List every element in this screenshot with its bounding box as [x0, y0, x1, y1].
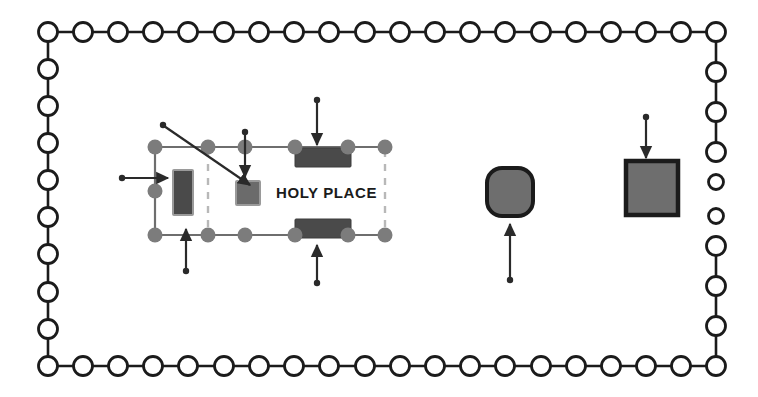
post-top [179, 23, 198, 42]
post-top [144, 23, 163, 42]
post-bottom [320, 357, 339, 376]
holy-place-label: HOLY PLACE [276, 184, 377, 201]
post-top [426, 23, 445, 42]
pointer-lampstand [314, 245, 320, 286]
post-bottom [461, 357, 480, 376]
post-bottom [496, 357, 515, 376]
post-left [39, 134, 58, 153]
post-bottom [637, 357, 656, 376]
post-corner-top-left [39, 23, 58, 42]
tent-pillar [148, 184, 163, 199]
post-bottom [74, 357, 93, 376]
post-top [285, 23, 304, 42]
post-top [532, 23, 551, 42]
post-top [215, 23, 234, 42]
post-left [39, 320, 58, 339]
post-bottom [179, 357, 198, 376]
post-top [74, 23, 93, 42]
post-bottom [285, 357, 304, 376]
post-left [39, 171, 58, 190]
tabernacle-diagram-svg: HOLY PLACE [0, 0, 758, 397]
court-furniture [487, 161, 678, 216]
post-bottom [532, 357, 551, 376]
post-left [39, 97, 58, 116]
post-bottom [144, 357, 163, 376]
tent-pillar [201, 228, 216, 243]
laver [487, 168, 533, 216]
post-bottom [250, 357, 269, 376]
post-left [39, 208, 58, 227]
tent-pillar [148, 140, 163, 155]
tent-pillar [378, 140, 393, 155]
post-bottom [215, 357, 234, 376]
post-bottom [391, 357, 410, 376]
courtyard-posts [39, 23, 726, 376]
gate-post-lower [709, 209, 724, 224]
post-right [707, 277, 726, 296]
post-bottom [672, 357, 691, 376]
post-top [391, 23, 410, 42]
post-top [109, 23, 128, 42]
gate-post-upper [709, 175, 724, 190]
pointer-table-of-showbread [314, 97, 320, 145]
tent-pillar [288, 140, 303, 155]
post-top [320, 23, 339, 42]
tabernacle-diagram-canvas: HOLY PLACE [0, 0, 758, 397]
post-bottom [602, 357, 621, 376]
post-right [707, 103, 726, 122]
post-top [496, 23, 515, 42]
callout-pointers [119, 97, 649, 286]
post-bottom [109, 357, 128, 376]
altar-of-burnt-offering [626, 161, 678, 215]
ark-of-the-covenant [173, 170, 193, 215]
post-right [707, 237, 726, 256]
post-right [707, 317, 726, 336]
post-left [39, 283, 58, 302]
pointer-most-holy-place [119, 175, 168, 181]
post-right [707, 63, 726, 82]
post-left [39, 60, 58, 79]
tent-pillar [238, 228, 253, 243]
post-top [567, 23, 586, 42]
courtyard-perimeter [39, 23, 726, 376]
post-top [250, 23, 269, 42]
post-top [461, 23, 480, 42]
post-top [637, 23, 656, 42]
pointer-altar-of-burnt-offering [643, 114, 649, 158]
tent-pillar [288, 228, 303, 243]
post-corner-bottom-right [707, 357, 726, 376]
post-corner-bottom-left [39, 357, 58, 376]
post-bottom [567, 357, 586, 376]
courtyard-rails [48, 32, 716, 366]
post-bottom [426, 357, 445, 376]
post-bottom [356, 357, 375, 376]
post-corner-top-right [707, 23, 726, 42]
post-left [39, 245, 58, 264]
tabernacle-tent: HOLY PLACE [148, 140, 393, 243]
tent-pillar [148, 228, 163, 243]
post-top [672, 23, 691, 42]
pointer-laver [507, 224, 513, 283]
tent-pillar [341, 140, 356, 155]
post-right [707, 143, 726, 162]
post-top [356, 23, 375, 42]
post-top [602, 23, 621, 42]
tent-pillar [341, 228, 356, 243]
tent-pillar [378, 228, 393, 243]
